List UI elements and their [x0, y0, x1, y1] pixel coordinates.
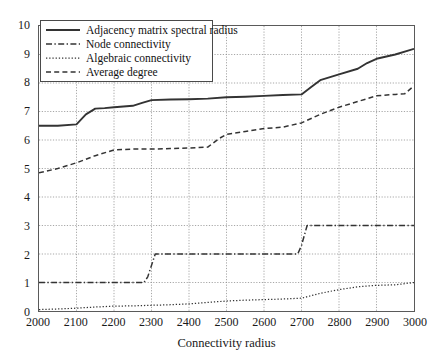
y-tick-label: 6 [0, 134, 30, 146]
legend-label: Average degree [81, 66, 158, 78]
legend-label: Node connectivity [81, 38, 171, 50]
legend-label: Adjacency matrix spectral radius [81, 24, 238, 36]
series-line-2 [39, 283, 414, 310]
y-tick-label: 1 [0, 277, 30, 289]
y-tick-label: 4 [0, 191, 30, 203]
legend-item: Average degree [45, 65, 208, 79]
legend-swatch-dotted-icon [45, 52, 81, 64]
legend-item: Adjacency matrix spectral radius [45, 23, 208, 37]
legend-swatch-dashed-icon [45, 66, 81, 78]
x-axis-tick-labels: 2000210022002300240025002600270028002900… [38, 316, 415, 332]
y-axis-tick-labels: 012345678910 [0, 25, 34, 312]
y-tick-label: 7 [0, 105, 30, 117]
y-tick-label: 8 [0, 76, 30, 88]
y-tick-label: 10 [0, 19, 30, 31]
legend-label: Algebraic connectivity [81, 52, 191, 64]
series-line-3 [39, 86, 414, 173]
y-tick-label: 2 [0, 249, 30, 261]
x-tick-label: 3000 [393, 316, 437, 328]
legend-swatch-dashdot-icon [45, 38, 81, 50]
legend-swatch-solid-icon [45, 24, 81, 36]
legend-item: Node connectivity [45, 37, 208, 51]
y-tick-label: 3 [0, 220, 30, 232]
x-axis-title: Connectivity radius [38, 336, 415, 351]
series-line-1 [39, 226, 414, 283]
chart-figure: 012345678910 200021002200230024002500260… [0, 0, 442, 364]
y-tick-label: 9 [0, 48, 30, 60]
y-tick-label: 5 [0, 163, 30, 175]
legend-item: Algebraic connectivity [45, 51, 208, 65]
chart-legend: Adjacency matrix spectral radiusNode con… [40, 20, 213, 82]
